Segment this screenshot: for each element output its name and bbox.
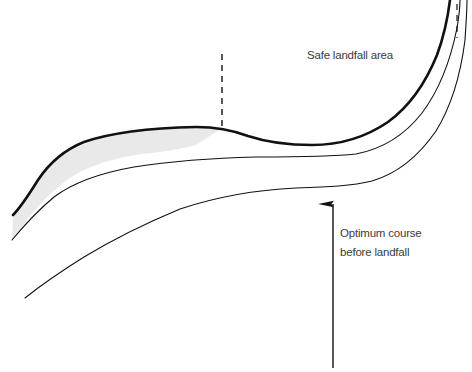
navigation-diagram: Safe landfall area Optimum coursebefore …: [0, 0, 472, 372]
optimum-course-label-line2: before landfall: [340, 246, 409, 258]
optimum-course-label-line1: Optimum course: [340, 227, 422, 239]
safe-landfall-area-label: Safe landfall area: [307, 46, 393, 65]
diagram-canvas: [0, 0, 472, 372]
safe-landfall-shading: [12, 128, 222, 240]
optimum-course-label: Optimum coursebefore landfall: [340, 224, 422, 262]
inner-safe-limit-curve: [12, 0, 460, 240]
